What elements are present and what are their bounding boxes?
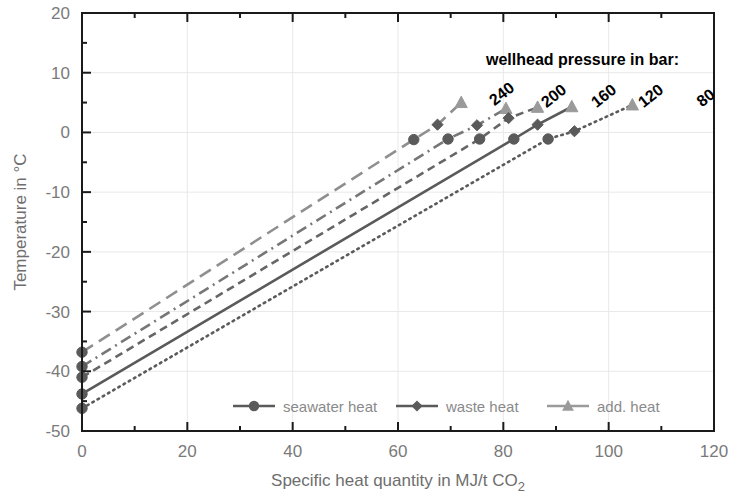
legend-label-1: waste heat bbox=[445, 398, 519, 415]
x-axis-title: Specific heat quantity in MJ/t CO2 bbox=[271, 471, 525, 493]
marker-diamond-120 bbox=[532, 119, 543, 130]
series-200 bbox=[82, 109, 506, 367]
annotation-title: wellhead pressure in bar: bbox=[485, 51, 679, 68]
marker-circle-160 bbox=[474, 134, 484, 144]
series-80 bbox=[82, 105, 632, 408]
pressure-label-240: 240 bbox=[486, 79, 518, 109]
y-axis-title: Temperature in °C bbox=[11, 153, 30, 290]
pressure-label-120: 120 bbox=[635, 81, 667, 111]
marker-circle-240 bbox=[409, 134, 419, 144]
axis-titles: Specific heat quantity in MJ/t CO2Temper… bbox=[11, 153, 525, 493]
y-tick-label: 20 bbox=[51, 4, 70, 23]
temperature-vs-specific-heat-chart: 020406080100120-50-40-30-20-1001020Speci… bbox=[0, 0, 732, 493]
marker-triangle-120 bbox=[566, 100, 578, 111]
y-tick-label: -40 bbox=[45, 362, 70, 381]
y-tick-label: 10 bbox=[51, 64, 70, 83]
x-tick-label: 40 bbox=[283, 442, 302, 461]
x-tick-label: 80 bbox=[494, 442, 513, 461]
series-line-160 bbox=[82, 107, 538, 377]
y-tick-label: -10 bbox=[45, 183, 70, 202]
x-tick-label: 100 bbox=[594, 442, 622, 461]
marker-diamond-200 bbox=[471, 120, 482, 131]
legend: seawater heatwaste heatadd. heat bbox=[233, 398, 660, 415]
marker-circle-120 bbox=[509, 134, 519, 144]
series-line-80 bbox=[82, 105, 632, 408]
marker-diamond-80 bbox=[569, 126, 580, 137]
chart-container: 020406080100120-50-40-30-20-1001020Speci… bbox=[0, 0, 732, 493]
series-160 bbox=[82, 107, 538, 377]
series-240 bbox=[82, 103, 461, 353]
x-tick-label: 0 bbox=[77, 442, 86, 461]
y-tick-label: -20 bbox=[45, 243, 70, 262]
y-tick-label: -30 bbox=[45, 303, 70, 322]
marker-triangle-240 bbox=[455, 96, 467, 107]
x-tick-label: 60 bbox=[389, 442, 408, 461]
series-markers bbox=[77, 96, 639, 413]
y-tick-label: 0 bbox=[61, 123, 70, 142]
legend-marker-diamond bbox=[411, 400, 422, 411]
grid-lines bbox=[82, 13, 714, 431]
marker-circle-200 bbox=[443, 134, 453, 144]
series-line-240 bbox=[82, 103, 461, 353]
series-line-120 bbox=[82, 107, 572, 394]
legend-marker-circle bbox=[249, 401, 259, 411]
series-lines bbox=[82, 103, 632, 409]
marker-circle-80 bbox=[543, 134, 553, 144]
annotation-group: wellhead pressure in bar:24020016012080 bbox=[485, 51, 718, 111]
x-tick-label: 20 bbox=[178, 442, 197, 461]
pressure-label-160: 160 bbox=[588, 81, 620, 111]
legend-label-2: add. heat bbox=[597, 398, 660, 415]
series-line-200 bbox=[82, 109, 506, 367]
pressure-label-200: 200 bbox=[538, 81, 570, 111]
x-tick-label: 120 bbox=[700, 442, 728, 461]
y-tick-label: -50 bbox=[45, 422, 70, 441]
marker-diamond-160 bbox=[503, 112, 514, 123]
series-120 bbox=[82, 107, 572, 394]
legend-label-0: seawater heat bbox=[283, 398, 378, 415]
